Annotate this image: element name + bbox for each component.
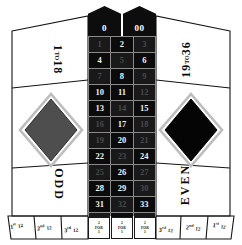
bet-even[interactable]: EVEN bbox=[156, 177, 216, 192]
dozen-left-1-count: 12 bbox=[18, 223, 24, 229]
bet-cell-9[interactable]: 9 bbox=[134, 69, 155, 84]
dozen-left-1-suffix: st bbox=[12, 221, 16, 226]
bet-cell-8[interactable]: 8 bbox=[111, 69, 132, 84]
dozen-right-3-suffix: st bbox=[216, 221, 220, 226]
bet-cell-24[interactable]: 24 bbox=[134, 149, 155, 164]
column-bet-2-bottom: 1 bbox=[121, 230, 123, 234]
bet-dozen-right-2[interactable]: 2nd12 bbox=[186, 222, 201, 231]
number-label: 18 bbox=[140, 120, 149, 129]
bet-dozen-right-1[interactable]: 3rd12 bbox=[159, 225, 173, 234]
odd-label: ODD bbox=[50, 168, 65, 201]
bet-cell-29[interactable]: 29 bbox=[111, 181, 132, 196]
bet-cell-13[interactable]: 13 bbox=[89, 101, 110, 116]
low-range-end: 18 bbox=[52, 60, 66, 74]
dozen-right-2-count: 12 bbox=[195, 226, 200, 231]
number-label: 13 bbox=[95, 104, 104, 113]
bet-cell-33[interactable]: 33 bbox=[134, 197, 155, 212]
number-label: 6 bbox=[142, 56, 146, 65]
bet-cell-22[interactable]: 22 bbox=[89, 149, 110, 164]
bet-cell-25[interactable]: 25 bbox=[89, 165, 110, 180]
even-label: EVEN bbox=[179, 164, 194, 205]
number-label: 10 bbox=[95, 88, 104, 97]
high-range-end: 36 bbox=[179, 41, 193, 55]
bet-cell-7[interactable]: 7 bbox=[89, 69, 110, 84]
number-label: 3 bbox=[142, 40, 146, 49]
bet-cell-14[interactable]: 14 bbox=[111, 101, 132, 116]
column-bet-3[interactable]: 2FOR1 bbox=[134, 217, 156, 239]
high-range-start: 19 bbox=[179, 64, 193, 78]
bet-cell-3[interactable]: 3 bbox=[134, 37, 155, 52]
number-label: 19 bbox=[95, 136, 104, 145]
number-label: 5 bbox=[120, 56, 124, 65]
number-label: 23 bbox=[118, 152, 127, 161]
black-diamond-bet bbox=[160, 94, 222, 166]
number-label: 33 bbox=[140, 200, 149, 209]
bet-cell-2[interactable]: 2 bbox=[111, 37, 132, 52]
bet-cell-26[interactable]: 26 bbox=[111, 165, 132, 180]
number-label: 20 bbox=[118, 136, 127, 145]
number-label: 30 bbox=[140, 184, 149, 193]
roulette-betting-layout: 0 00 12345678910111213141516171819202122… bbox=[0, 0, 242, 245]
dozen-right-1-count: 12 bbox=[168, 228, 173, 233]
bet-cell-21[interactable]: 21 bbox=[134, 133, 155, 148]
bet-odd[interactable]: ODD bbox=[28, 177, 88, 192]
number-label: 9 bbox=[142, 72, 146, 81]
low-to-word: TO bbox=[54, 52, 60, 61]
bet-cell-11[interactable]: 11 bbox=[111, 85, 132, 100]
bet-cell-31[interactable]: 31 bbox=[89, 197, 110, 212]
bet-cell-32[interactable]: 32 bbox=[111, 197, 132, 212]
bet-cell-20[interactable]: 20 bbox=[111, 133, 132, 148]
number-label: 17 bbox=[118, 120, 127, 129]
dozen-left-3-suffix: rd bbox=[67, 225, 71, 230]
dozen-left-2-suffix: nd bbox=[40, 223, 45, 228]
bet-low-1-to-18[interactable]: 1TO18 bbox=[28, 52, 88, 67]
red-diamond-bet bbox=[20, 94, 82, 166]
dozen-left-3-count: 12 bbox=[73, 228, 78, 233]
bet-cell-17[interactable]: 17 bbox=[111, 117, 132, 132]
bet-cell-10[interactable]: 10 bbox=[89, 85, 110, 100]
bet-high-19-to-36[interactable]: 19TO36 bbox=[156, 52, 216, 67]
bet-cell-30[interactable]: 30 bbox=[134, 181, 155, 196]
bet-cell-18[interactable]: 18 bbox=[134, 117, 155, 132]
bet-cell-27[interactable]: 27 bbox=[134, 165, 155, 180]
low-range-start: 1 bbox=[52, 45, 66, 52]
dozen-right-3-count: 12 bbox=[220, 224, 226, 230]
bet-dozen-left-2[interactable]: 2nd12 bbox=[37, 222, 52, 231]
bet-cell-1[interactable]: 1 bbox=[89, 37, 110, 52]
bet-cell-19[interactable]: 19 bbox=[89, 133, 110, 148]
number-label: 8 bbox=[120, 72, 124, 81]
dozen-left-2-count: 12 bbox=[46, 225, 51, 230]
bet-cell-15[interactable]: 15 bbox=[134, 101, 155, 116]
number-label: 26 bbox=[118, 168, 127, 177]
number-label: 15 bbox=[140, 104, 149, 113]
bet-cell-4[interactable]: 4 bbox=[89, 53, 110, 68]
number-label: 28 bbox=[95, 184, 104, 193]
number-label: 2 bbox=[120, 40, 124, 49]
bet-cell-5[interactable]: 5 bbox=[111, 53, 132, 68]
column-bet-3-bottom: 1 bbox=[144, 230, 146, 234]
number-label: 7 bbox=[98, 72, 102, 81]
bet-cell-6[interactable]: 6 bbox=[134, 53, 155, 68]
number-label: 22 bbox=[95, 152, 104, 161]
bet-cell-12[interactable]: 12 bbox=[134, 85, 155, 100]
number-label: 16 bbox=[95, 120, 104, 129]
bet-cell-zero[interactable]: 0 bbox=[88, 6, 121, 36]
number-label: 21 bbox=[140, 136, 149, 145]
column-bet-2[interactable]: 2FOR1 bbox=[111, 217, 133, 239]
dozen-right-1-suffix: rd bbox=[162, 225, 166, 230]
bet-cell-double-zero[interactable]: 00 bbox=[123, 6, 156, 36]
number-label: 1 bbox=[98, 40, 102, 49]
number-label: 14 bbox=[118, 104, 127, 113]
bet-cell-28[interactable]: 28 bbox=[89, 181, 110, 196]
number-label: 31 bbox=[95, 200, 104, 209]
bet-cell-23[interactable]: 23 bbox=[111, 149, 132, 164]
number-label: 4 bbox=[98, 56, 102, 65]
number-label: 32 bbox=[118, 200, 127, 209]
bet-dozen-left-3[interactable]: 3rd12 bbox=[64, 225, 78, 234]
column-bet-1[interactable]: 2FOR1 bbox=[88, 217, 110, 239]
dozen-right-2-suffix: nd bbox=[189, 223, 194, 228]
number-label: 11 bbox=[118, 88, 126, 97]
bet-cell-16[interactable]: 16 bbox=[89, 117, 110, 132]
number-label: 12 bbox=[140, 88, 149, 97]
zero-label: 0 bbox=[102, 23, 107, 33]
